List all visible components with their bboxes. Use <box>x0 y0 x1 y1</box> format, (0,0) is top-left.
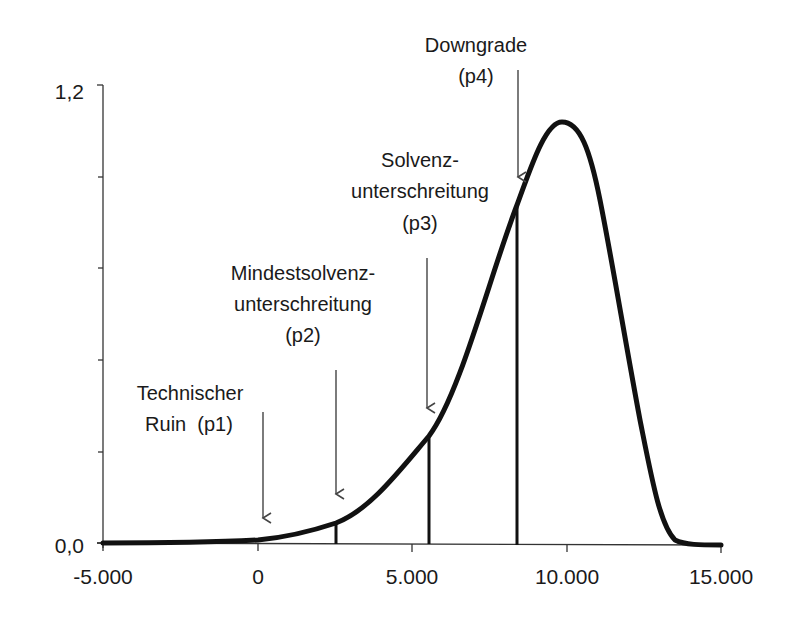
y-tick-label-top: 1,2 <box>55 80 84 103</box>
x-axis: -5.000 0 5.000 10.000 15.000 <box>73 543 753 588</box>
annotation-p1: Technischer Ruin (p1) <box>137 382 244 435</box>
x-tick-label: 15.000 <box>689 565 753 588</box>
annotation-p3-line3: (p3) <box>402 212 438 234</box>
annotation-p1-line2: Ruin (p1) <box>145 413 233 435</box>
x-tick-label: 0 <box>252 565 264 588</box>
annotation-p1-line1: Technischer <box>137 382 244 404</box>
annotation-p3-line1: Solvenz- <box>381 149 459 171</box>
y-axis: 1,2 0,0 <box>55 80 103 557</box>
annotation-p4: Downgrade (p4) <box>425 34 527 87</box>
density-chart: 1,2 0,0 -5.000 0 5.000 10.000 15.000 Tec… <box>0 0 800 630</box>
annotation-p3-line2: unterschreitung <box>351 180 489 202</box>
annotation-p2-line2: unterschreitung <box>234 293 372 315</box>
annotation-p4-line1: Downgrade <box>425 34 527 56</box>
x-tick-label: 10.000 <box>535 565 599 588</box>
annotation-p2-line1: Mindestsolvenz- <box>231 262 376 284</box>
x-tick-label: 5.000 <box>386 565 439 588</box>
annotation-p2: Mindestsolvenz- unterschreitung (p2) <box>231 262 376 346</box>
annotation-p3: Solvenz- unterschreitung (p3) <box>351 149 489 234</box>
x-tick-label: -5.000 <box>73 565 133 588</box>
y-tick-label-bottom: 0,0 <box>55 534 84 557</box>
annotation-p4-line2: (p4) <box>458 65 494 87</box>
annotation-p2-line3: (p2) <box>285 324 321 346</box>
